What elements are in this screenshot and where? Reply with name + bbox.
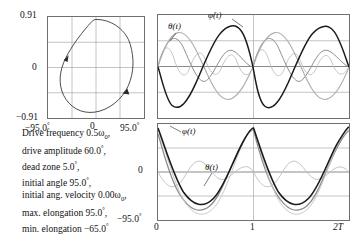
param-value: 0.5 bbox=[86, 128, 98, 138]
param-dead-zone: dead zone 5.0°, bbox=[22, 158, 152, 174]
param-value: 5.0 bbox=[63, 162, 75, 172]
comma: , bbox=[105, 208, 107, 218]
angle-theta-curve-label: θ(t) bbox=[205, 163, 218, 172]
angle-x-mid-label: 1 bbox=[250, 223, 255, 233]
velocity-phi-dot-curve-label: φ̇(t) bbox=[208, 11, 221, 20]
param-initial-angle: initial angle 95.0°, bbox=[22, 174, 152, 190]
comma: , bbox=[89, 178, 91, 188]
param-drive-frequency: Drive frequency 0.5ω0, bbox=[22, 128, 152, 142]
comma: , bbox=[108, 128, 110, 138]
figure-root: 0.91 0 −0.91 −95.0° 0 95.0° θ(t) φ̇(t) bbox=[0, 0, 353, 239]
comma: , bbox=[104, 147, 106, 157]
param-label: max. elongation bbox=[22, 208, 83, 218]
param-value: 60.0 bbox=[84, 147, 101, 157]
angle-phi-curve-label: φ(t) bbox=[182, 127, 195, 136]
angular-velocity-panel bbox=[157, 14, 350, 119]
angle-plot bbox=[158, 124, 349, 220]
velocity-theta-curve-label: θ(t) bbox=[168, 22, 181, 31]
angle-x-start-label: 0 bbox=[154, 223, 159, 233]
phase-portrait-panel bbox=[47, 16, 145, 119]
comma: , bbox=[77, 162, 79, 172]
phase-y-max-label: 0.91 bbox=[20, 11, 37, 21]
param-min-elongation: min. elongation −65.0° bbox=[22, 220, 152, 236]
param-initial-ang-velocity: initial ang. velocity 0.00ω0, bbox=[22, 190, 152, 204]
angle-panel bbox=[157, 123, 350, 221]
param-label: Drive frequency bbox=[22, 128, 84, 138]
param-label: dead zone bbox=[22, 162, 60, 172]
param-value: 0.00 bbox=[98, 190, 115, 200]
parameter-text-block: Drive frequency 0.5ω0, drive amplitude 6… bbox=[22, 128, 152, 236]
param-label: initial angle bbox=[22, 178, 67, 188]
angle-x-end-label: 2T bbox=[333, 223, 343, 233]
param-value: 95.0 bbox=[70, 178, 87, 188]
angular-velocity-plot bbox=[158, 15, 349, 118]
degree-sign: ° bbox=[137, 121, 140, 128]
phase-gridlines bbox=[48, 17, 144, 118]
param-value: −65.0 bbox=[84, 224, 106, 234]
phase-y-mid-label: 0 bbox=[32, 63, 37, 73]
comma: , bbox=[124, 190, 126, 200]
param-label: initial ang. velocity bbox=[22, 190, 96, 200]
phase-orbit-curve bbox=[60, 19, 133, 112]
degree-sign: ° bbox=[47, 121, 50, 128]
param-value: 95.0 bbox=[86, 208, 103, 218]
degree-sign: ° bbox=[106, 222, 109, 229]
phase-direction-arrow-lower-right bbox=[122, 89, 129, 95]
param-label: drive amplitude bbox=[22, 147, 82, 157]
param-drive-amplitude: drive amplitude 60.0°, bbox=[22, 142, 152, 158]
param-max-elongation: max. elongation 95.0°, bbox=[22, 204, 152, 220]
param-label: min. elongation bbox=[22, 224, 82, 234]
phase-portrait-plot bbox=[48, 17, 144, 118]
